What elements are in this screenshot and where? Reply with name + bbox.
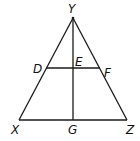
segment-xy [19,18,73,120]
label-y: Y [68,2,77,16]
label-f: F [104,66,112,80]
label-g: G [68,123,77,137]
label-d: D [33,62,42,76]
label-x: X [10,123,20,137]
triangle-diagram: Y D E F X G Z [0,0,140,141]
vertex-y-dot [72,17,75,20]
label-z: Z [125,123,135,137]
segment-yz [73,18,127,120]
label-e: E [75,55,83,69]
